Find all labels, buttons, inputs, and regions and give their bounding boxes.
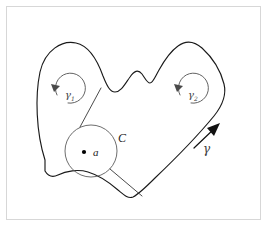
- circle-c-label: C: [118, 131, 127, 145]
- outer-contour-path: [37, 42, 225, 197]
- gamma-1-subscript: 1: [71, 95, 75, 102]
- slit-upper-path: [80, 88, 101, 127]
- point-a-dot: [82, 150, 86, 154]
- circle-c-path: [65, 125, 117, 177]
- gamma-2-subscript: 2: [193, 95, 198, 102]
- figure-page: a C γ 1 γ 2 γ: [0, 0, 269, 228]
- contour-diagram: a C γ 1 γ 2 γ: [0, 0, 269, 228]
- point-a-label: a: [93, 146, 99, 158]
- slit-lower-path: [110, 169, 142, 196]
- gamma-outer-label: γ: [203, 142, 211, 156]
